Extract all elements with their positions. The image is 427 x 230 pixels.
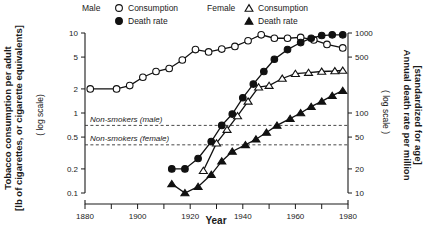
left-axis-tick-label: 0.5 (67, 133, 79, 142)
series-marker-male-death-rate (271, 56, 278, 63)
reference-label-nonsmokers-female: Non-smokers (female) (90, 134, 169, 143)
left-axis-tick-label: 10 (69, 29, 78, 38)
x-axis-title: Year (205, 215, 226, 226)
series-marker-male-consumption (140, 74, 147, 81)
x-axis-tick-label: 1940 (234, 212, 252, 221)
left-axis-tick-label: 0.2 (67, 165, 79, 174)
tobacco-consumption-death-rate-chart: Male Consumption Death rate Female Consu… (0, 0, 427, 230)
legend-label-male-consumption: Consumption (128, 3, 178, 13)
x-axis-tick-label: 1920 (181, 212, 199, 221)
series-marker-male-death-rate (195, 155, 202, 162)
left-axis-tick-label: 1 (74, 109, 79, 118)
right-axis-title-line2: [standardized for age] (413, 65, 424, 164)
series-marker-male-consumption (179, 57, 186, 64)
series-marker-male-death-rate (168, 166, 175, 173)
left-axis-title-line2: [lb of cigarettes, or cigarette equivale… (13, 25, 24, 211)
series-marker-male-consumption (192, 46, 199, 53)
legend-marker-male-consumption (116, 5, 123, 12)
right-axis-tick-label: 500 (355, 53, 369, 62)
right-axis-tick-label: 100 (355, 109, 369, 118)
series-marker-male-consumption (339, 45, 346, 52)
series-marker-male-consumption (87, 86, 94, 93)
series-marker-male-consumption (232, 43, 239, 50)
legend-label-female-death-rate: Death rate (258, 16, 298, 26)
series-marker-male-death-rate (182, 166, 189, 173)
series-marker-male-death-rate (250, 81, 257, 88)
series-marker-male-consumption (166, 65, 173, 72)
legend-group-female: Female (207, 3, 236, 13)
left-axis-tick-label: 0.1 (67, 189, 79, 198)
left-axis-tick-label: 5 (74, 53, 79, 62)
series-marker-male-death-rate (261, 68, 268, 75)
chart-figure: Male Consumption Death rate Female Consu… (0, 0, 427, 230)
series-marker-male-death-rate (308, 35, 315, 42)
reference-label-nonsmokers-male: Non-smokers (male) (90, 115, 163, 124)
series-marker-male-consumption (113, 86, 120, 93)
right-axis-title-line1: Annual death rate per million (402, 50, 413, 181)
right-axis-tick-label: 20 (355, 165, 364, 174)
legend-label-female-consumption: Consumption (258, 3, 308, 13)
series-marker-male-consumption (218, 46, 225, 53)
series-marker-male-death-rate (297, 39, 304, 46)
series-marker-male-death-rate (339, 31, 346, 38)
series-marker-male-consumption (126, 82, 133, 89)
right-axis-scale-note: ( log scale ) (381, 90, 391, 134)
series-marker-male-consumption (271, 35, 278, 42)
x-axis-tick-label: 1960 (287, 212, 305, 221)
right-axis-tick-label: 1000 (355, 29, 373, 38)
series-marker-male-death-rate (240, 94, 247, 101)
series-marker-male-consumption (284, 35, 291, 42)
series-marker-male-death-rate (218, 122, 225, 129)
right-axis-tick-label: 50 (355, 133, 364, 142)
left-axis-scale-note: ( log scale) (35, 94, 45, 136)
series-marker-male-consumption (324, 41, 331, 48)
series-marker-male-consumption (258, 31, 265, 38)
x-axis-tick-label: 1880 (76, 212, 94, 221)
right-axis-tick-label: 10 (355, 189, 364, 198)
series-marker-male-consumption (245, 37, 252, 44)
x-axis-tick-label: 1900 (129, 212, 147, 221)
left-axis-title-line1: Tobacco consumption per adult (2, 45, 13, 189)
legend-group-male: Male (82, 3, 101, 13)
legend-marker-male-death-rate (116, 18, 123, 25)
series-marker-male-death-rate (284, 46, 291, 53)
series-marker-male-consumption (205, 49, 212, 56)
x-axis-tick-label: 1980 (339, 212, 357, 221)
left-axis-tick-label: 2 (74, 85, 79, 94)
series-marker-male-consumption (153, 68, 160, 75)
legend-label-male-death-rate: Death rate (128, 16, 168, 26)
series-marker-male-death-rate (329, 31, 336, 38)
series-marker-male-death-rate (318, 32, 325, 39)
